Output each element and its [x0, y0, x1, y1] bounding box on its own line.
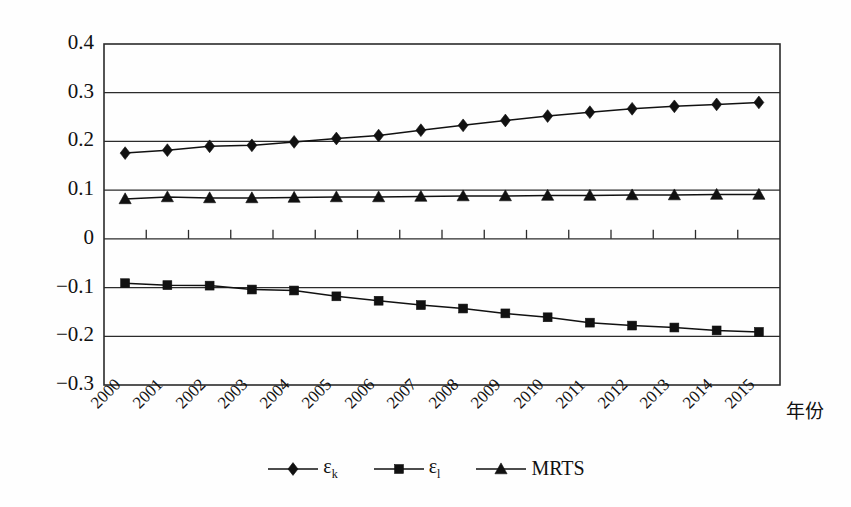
legend-item-1[interactable]: εk [266, 455, 337, 482]
y-axis-tick-label: −0.3 [56, 371, 94, 396]
y-axis-tick-label: 0.1 [68, 176, 94, 201]
legend-marker-diamond-icon [266, 459, 320, 479]
data-point [628, 321, 637, 330]
y-axis-tick-label: 0.4 [68, 30, 94, 55]
data-point [416, 301, 425, 310]
chart-figure: 0.40.30.20.10−0.1−0.2−0.3 20002001200220… [0, 0, 851, 507]
y-axis-tick-label: −0.2 [56, 322, 94, 347]
plot-frame [104, 44, 780, 385]
data-point [501, 309, 510, 318]
data-point [500, 114, 510, 127]
y-axis-tick-label: −0.1 [56, 274, 94, 299]
data-point [162, 144, 172, 157]
data-point [670, 323, 679, 332]
y-axis-tick-label: 0 [84, 225, 95, 250]
data-point [290, 286, 299, 295]
data-point [754, 327, 763, 336]
data-point [543, 110, 553, 123]
data-point [289, 136, 299, 149]
legend-marker-triangle-icon [474, 459, 528, 479]
legend-item-3[interactable]: MRTS [474, 457, 584, 480]
series-layer [119, 96, 765, 336]
x-axis-title: 年份 [786, 396, 824, 423]
data-point [332, 292, 341, 301]
data-point [120, 147, 130, 160]
data-point [712, 326, 721, 335]
x-axis-ticks [146, 230, 738, 239]
data-point [543, 313, 552, 322]
legend-label: MRTS [531, 457, 584, 480]
chart-canvas [0, 0, 851, 507]
data-point [458, 119, 468, 132]
y-axis-tick-label: 0.3 [68, 79, 94, 104]
data-point [247, 285, 256, 294]
data-point [331, 132, 341, 145]
data-point [712, 98, 722, 111]
y-axis-tick-label: 0.2 [68, 127, 94, 152]
legend-label: εl [429, 455, 441, 482]
legend-marker-square-icon [372, 459, 426, 479]
legend-label: εk [323, 455, 337, 482]
chart-legend: εkεlMRTS [0, 455, 851, 482]
gridlines [104, 93, 780, 337]
data-point [585, 106, 595, 119]
data-point [669, 100, 679, 113]
legend-item-2[interactable]: εl [372, 455, 441, 482]
data-point [754, 96, 764, 109]
data-point [374, 129, 384, 142]
data-point [627, 102, 637, 115]
data-point [459, 304, 468, 313]
data-point [205, 281, 214, 290]
data-point [416, 124, 426, 137]
series-1 [120, 96, 764, 159]
data-point [163, 281, 172, 290]
data-point [585, 318, 594, 327]
data-point [121, 279, 130, 288]
data-point [374, 296, 383, 305]
